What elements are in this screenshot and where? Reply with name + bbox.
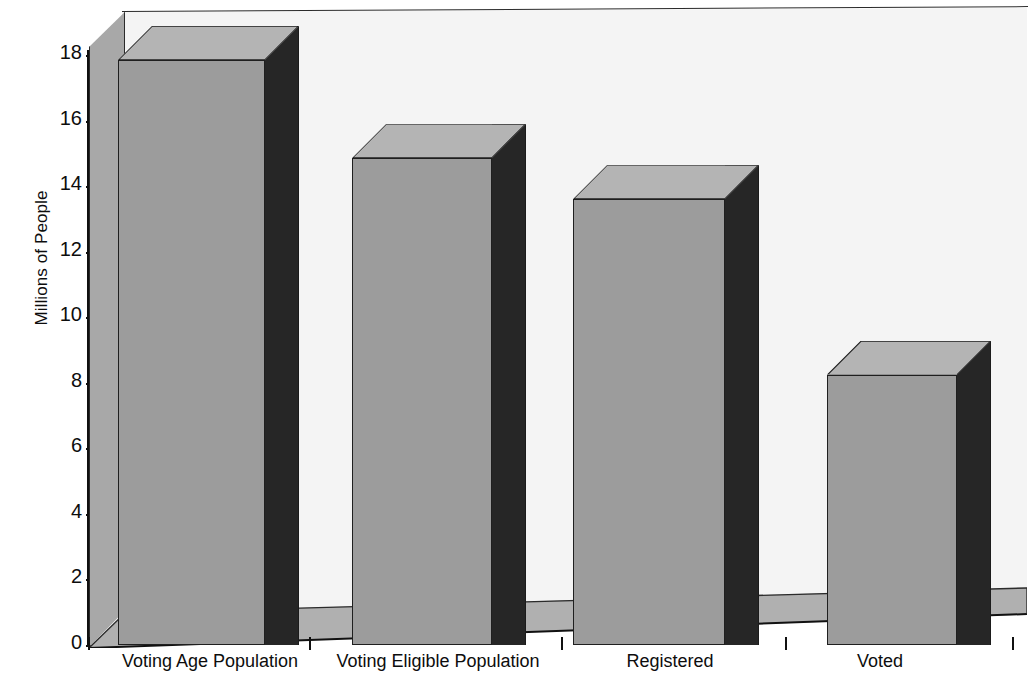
- bar[interactable]: [573, 165, 725, 645]
- x-axis-separator: [561, 637, 563, 650]
- x-axis-separator: [785, 637, 787, 650]
- y-axis-tick-label: 8: [71, 370, 82, 390]
- bar-side-face: [957, 341, 991, 645]
- bar[interactable]: [118, 26, 265, 645]
- y-axis-tick: 0: [0, 645, 100, 646]
- y-axis-tick: 10: [0, 317, 100, 318]
- plot-back-wall-top-edge: [122, 8, 1027, 16]
- bar[interactable]: [352, 124, 492, 645]
- bar-side-face-fill: [725, 165, 758, 645]
- x-axis-label: Voting Age Population: [95, 652, 325, 670]
- bar-side-face: [265, 26, 299, 645]
- y-axis-tick: 8: [0, 383, 100, 384]
- bar-side-face: [492, 124, 526, 645]
- bar-side-face-fill: [492, 124, 525, 645]
- bar-front-face: [118, 60, 265, 645]
- chart-canvas: Millions of People 181614121086420 Votin…: [0, 0, 1028, 694]
- x-axis-separator: [309, 637, 311, 650]
- y-axis-tick-label: 0: [71, 632, 82, 652]
- y-axis-tick-label: 6: [71, 435, 82, 455]
- x-axis-label: Voted: [800, 652, 960, 670]
- y-axis-tick-label: 10: [60, 304, 82, 324]
- bar[interactable]: [827, 341, 957, 645]
- y-axis-tick-label: 16: [60, 108, 82, 128]
- x-axis-separator: [88, 637, 90, 650]
- y-axis-tick: 2: [0, 579, 100, 580]
- y-axis-tick-label: 2: [71, 566, 82, 586]
- bar-front-face: [573, 199, 725, 645]
- y-axis-tick: 4: [0, 514, 100, 515]
- bar-side-face-fill: [957, 341, 990, 645]
- bar-front-face: [352, 158, 492, 645]
- bar-side-face-fill: [265, 26, 298, 645]
- y-axis-tick: 12: [0, 252, 100, 253]
- y-axis-title: Millions of People: [32, 158, 52, 358]
- x-axis-label: Registered: [575, 652, 765, 670]
- y-axis-tick: 16: [0, 121, 100, 122]
- y-axis-tick: 6: [0, 448, 100, 449]
- y-axis-tick: 18: [0, 55, 100, 56]
- plot-area: [89, 8, 1027, 648]
- y-axis-tick: 14: [0, 186, 100, 187]
- bar-side-face: [725, 165, 759, 645]
- y-axis-tick-label: 4: [71, 501, 82, 521]
- y-axis-tick-label: 14: [60, 173, 82, 193]
- x-axis-separator: [1012, 637, 1014, 650]
- y-axis-tick-label: 18: [60, 42, 82, 62]
- bar-front-face: [827, 375, 957, 645]
- y-axis-tick-label: 12: [60, 239, 82, 259]
- x-axis-label: Voting Eligible Population: [313, 652, 563, 670]
